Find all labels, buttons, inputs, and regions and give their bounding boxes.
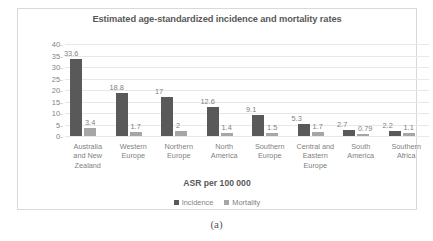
y-tick-mark — [60, 68, 63, 69]
y-tick-mark — [60, 80, 63, 81]
bar-value-label: 1.1 — [404, 124, 414, 132]
chart-legend: IncidenceMortality — [18, 198, 416, 207]
x-category-line: Africa — [397, 151, 416, 160]
y-axis-tick-labels: 4035302520151050 — [38, 39, 62, 142]
bar-incidence[interactable] — [343, 130, 355, 136]
x-category-line: Southern — [391, 142, 421, 151]
bar-value-label: 17 — [155, 88, 163, 96]
y-tick-mark — [60, 137, 63, 138]
bar-group: 12.61.4 — [202, 44, 248, 136]
bar-value-label: 12.6 — [201, 98, 215, 106]
x-category-label: SouthernEurope — [247, 142, 293, 161]
bar-mortality[interactable] — [403, 133, 415, 136]
x-category-line: North — [215, 142, 233, 151]
x-category-line: Europe — [258, 151, 282, 160]
x-category-line: America — [347, 151, 374, 160]
bar-group: 18.81.7 — [111, 44, 157, 136]
y-tick-mark — [60, 45, 63, 46]
bar-value-label: 1.4 — [222, 124, 232, 132]
bar-value-label: 9.1 — [246, 106, 256, 114]
bar-incidence[interactable] — [116, 93, 128, 136]
x-category-label: NorthAmerica — [202, 142, 248, 161]
legend-label: Mortality — [232, 198, 260, 207]
legend-swatch-icon — [224, 200, 229, 205]
x-category-label: Central andEasternEurope — [293, 142, 339, 170]
bar-group: 5.31.7 — [293, 44, 339, 136]
x-category-label: WesternEurope — [111, 142, 157, 161]
bar-value-label: 33.6 — [64, 50, 78, 58]
legend-label: Incidence — [182, 198, 214, 207]
y-tick-label: 25 — [52, 75, 60, 84]
y-axis-title: World areas — [0, 37, 4, 107]
bar-value-label: 1.5 — [267, 124, 277, 132]
y-tick-label: 20 — [52, 86, 60, 95]
chart-frame: Estimated age-standardized incidence and… — [17, 8, 417, 210]
x-category-label: Australiaand NewZealand — [65, 142, 111, 170]
x-category-line: Western — [120, 142, 147, 151]
bar-incidence[interactable] — [298, 124, 310, 136]
bar-group: 2.21.1 — [384, 44, 430, 136]
x-category-label: SouthernAfrica — [384, 142, 430, 161]
figure-caption: (a) — [0, 218, 433, 230]
y-tick-label: 10 — [52, 109, 60, 118]
x-category-line: Northern — [165, 142, 193, 151]
x-category-line: Central and — [296, 142, 334, 151]
legend-swatch-icon — [174, 200, 179, 205]
bar-group: 9.11.5 — [247, 44, 293, 136]
bar-value-label: 1.7 — [313, 123, 323, 131]
x-category-line: America — [211, 151, 238, 160]
bar-value-label: 2 — [176, 122, 180, 130]
bar-mortality[interactable] — [312, 132, 324, 136]
y-tick-mark — [60, 103, 63, 104]
bar-group: 33.63.4 — [65, 44, 111, 136]
bar-incidence[interactable] — [161, 97, 173, 136]
bar-mortality[interactable] — [84, 128, 96, 136]
x-category-line: and New — [73, 151, 102, 160]
plot-area: 33.63.418.81.717212.61.49.11.55.31.72.70… — [65, 44, 429, 137]
y-tick-mark — [60, 91, 63, 92]
bar-mortality[interactable] — [221, 133, 233, 136]
bar-group: 172 — [156, 44, 202, 136]
legend-item-mortality[interactable]: Mortality — [224, 198, 260, 207]
x-category-line: Australia — [74, 142, 102, 151]
bar-incidence[interactable] — [207, 107, 219, 136]
bar-value-label: 1.7 — [131, 123, 141, 131]
y-tick-label: 35 — [52, 52, 60, 61]
figure-container: Estimated age-standardized incidence and… — [0, 0, 433, 241]
bar-value-label: 2.7 — [337, 121, 347, 129]
x-category-line: Southern — [255, 142, 285, 151]
y-tick-label: 5 — [56, 121, 60, 130]
bar-mortality[interactable] — [175, 131, 187, 136]
bar-value-label: 0.79 — [358, 125, 372, 133]
y-tick-mark — [60, 57, 63, 58]
bar-incidence[interactable] — [70, 59, 82, 136]
x-axis-category-labels: Australiaand NewZealandWesternEuropeNort… — [65, 142, 429, 176]
y-tick-mark — [60, 126, 63, 127]
bar-value-label: 18.8 — [110, 84, 124, 92]
x-category-line: Eastern — [303, 151, 328, 160]
gridline — [65, 136, 429, 137]
chart-title: Estimated age-standardized incidence and… — [18, 14, 416, 24]
x-category-line: Europe — [303, 161, 327, 170]
bar-mortality[interactable] — [357, 134, 369, 136]
x-category-line: Europe — [121, 151, 145, 160]
x-category-label: NorthernEurope — [156, 142, 202, 161]
bar-value-label: 3.4 — [85, 119, 95, 127]
bar-group: 2.70.79 — [338, 44, 384, 136]
y-tick-label: 40 — [52, 40, 60, 49]
legend-item-incidence[interactable]: Incidence — [174, 198, 214, 207]
x-category-line: Europe — [167, 151, 191, 160]
x-category-line: Zealand — [75, 161, 101, 170]
x-axis-title: ASR per 100 000 — [18, 178, 416, 188]
bar-incidence[interactable] — [389, 131, 401, 136]
bar-mortality[interactable] — [130, 132, 142, 136]
y-tick-label: 15 — [52, 98, 60, 107]
bar-value-label: 2.2 — [383, 122, 393, 130]
x-category-label: SouthAmerica — [338, 142, 384, 161]
bar-incidence[interactable] — [252, 115, 264, 136]
y-tick-label: 0 — [56, 132, 60, 141]
y-tick-mark — [60, 114, 63, 115]
bar-mortality[interactable] — [266, 133, 278, 136]
bar-value-label: 5.3 — [292, 115, 302, 123]
x-category-line: South — [351, 142, 370, 151]
